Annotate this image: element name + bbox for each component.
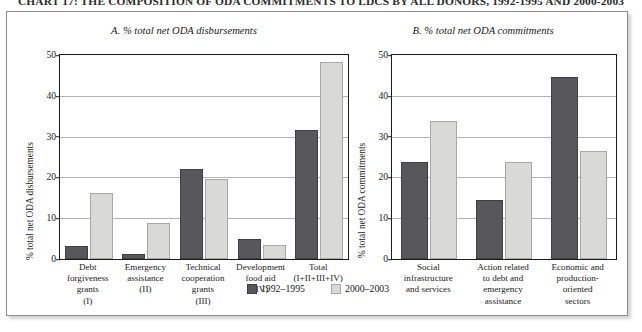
chart-title: CHART 17: THE COMPOSITION OF ODA COMMITM… [0, 0, 642, 8]
chart-frame: A. % total net ODA disbursements B. % to… [6, 11, 628, 316]
panel-b-plot-area: 01020304050 [391, 54, 617, 260]
panel-a-y-axis-title: % total net ODA disbursements [25, 142, 35, 260]
y-axis-tick-label: 30 [354, 132, 388, 142]
y-axis-tick-label: 40 [22, 91, 56, 101]
chart-inner: A. % total net ODA disbursements B. % to… [7, 12, 627, 315]
legend-item: 2000–2003 [331, 283, 389, 294]
bar-group [60, 55, 118, 259]
y-axis-tick-label: 20 [22, 173, 56, 183]
chart-screenshot: CHART 17: THE COMPOSITION OF ODA COMMITM… [0, 0, 642, 332]
y-axis-tick-label: 0 [22, 254, 56, 264]
bar [295, 130, 318, 259]
y-axis-tick-label: 30 [22, 132, 56, 142]
bar [238, 239, 261, 259]
bar [180, 169, 203, 259]
chart-legend: 1992–19952000–2003 [7, 283, 629, 294]
bar [401, 162, 428, 259]
y-axis-tick-label: 0 [354, 254, 388, 264]
bar [263, 245, 286, 259]
panel-b-y-axis-title: % total net ODA commitments [357, 143, 367, 258]
bar-group [233, 55, 291, 259]
bar [430, 121, 457, 259]
panel-a-header: A. % total net ODA disbursements [19, 25, 349, 36]
bar [320, 62, 343, 259]
bar [65, 246, 88, 259]
legend-item-label: 2000–2003 [345, 283, 389, 294]
dark-square-swatch [247, 284, 257, 294]
bar [476, 200, 503, 259]
y-axis-tick-label: 40 [354, 91, 388, 101]
y-axis-tick-label: 50 [354, 50, 388, 60]
bar [580, 151, 607, 259]
y-axis-tick-label: 10 [22, 213, 56, 223]
bar-group [467, 55, 542, 259]
y-axis-tick-label: 10 [354, 213, 388, 223]
panel-a-bar-groups [60, 55, 348, 259]
bar-group [118, 55, 176, 259]
bar [122, 254, 145, 259]
bar [147, 223, 170, 259]
legend-item-label: 1992–1995 [261, 283, 305, 294]
bar-group [541, 55, 616, 259]
y-axis-tick-label: 20 [354, 173, 388, 183]
bar [505, 162, 532, 260]
bar [551, 77, 578, 259]
bar-group [392, 55, 467, 259]
panel-a-plot-area: 01020304050 [59, 54, 349, 260]
y-axis-tick-label: 50 [22, 50, 56, 60]
light-square-swatch [331, 284, 341, 294]
bar [205, 179, 228, 259]
bar [90, 193, 113, 260]
legend-item: 1992–1995 [247, 283, 305, 294]
bar-group [175, 55, 233, 259]
panel-b-header: B. % total net ODA commitments [347, 25, 619, 36]
panel-b-bar-groups [392, 55, 616, 259]
bar-group [290, 55, 348, 259]
